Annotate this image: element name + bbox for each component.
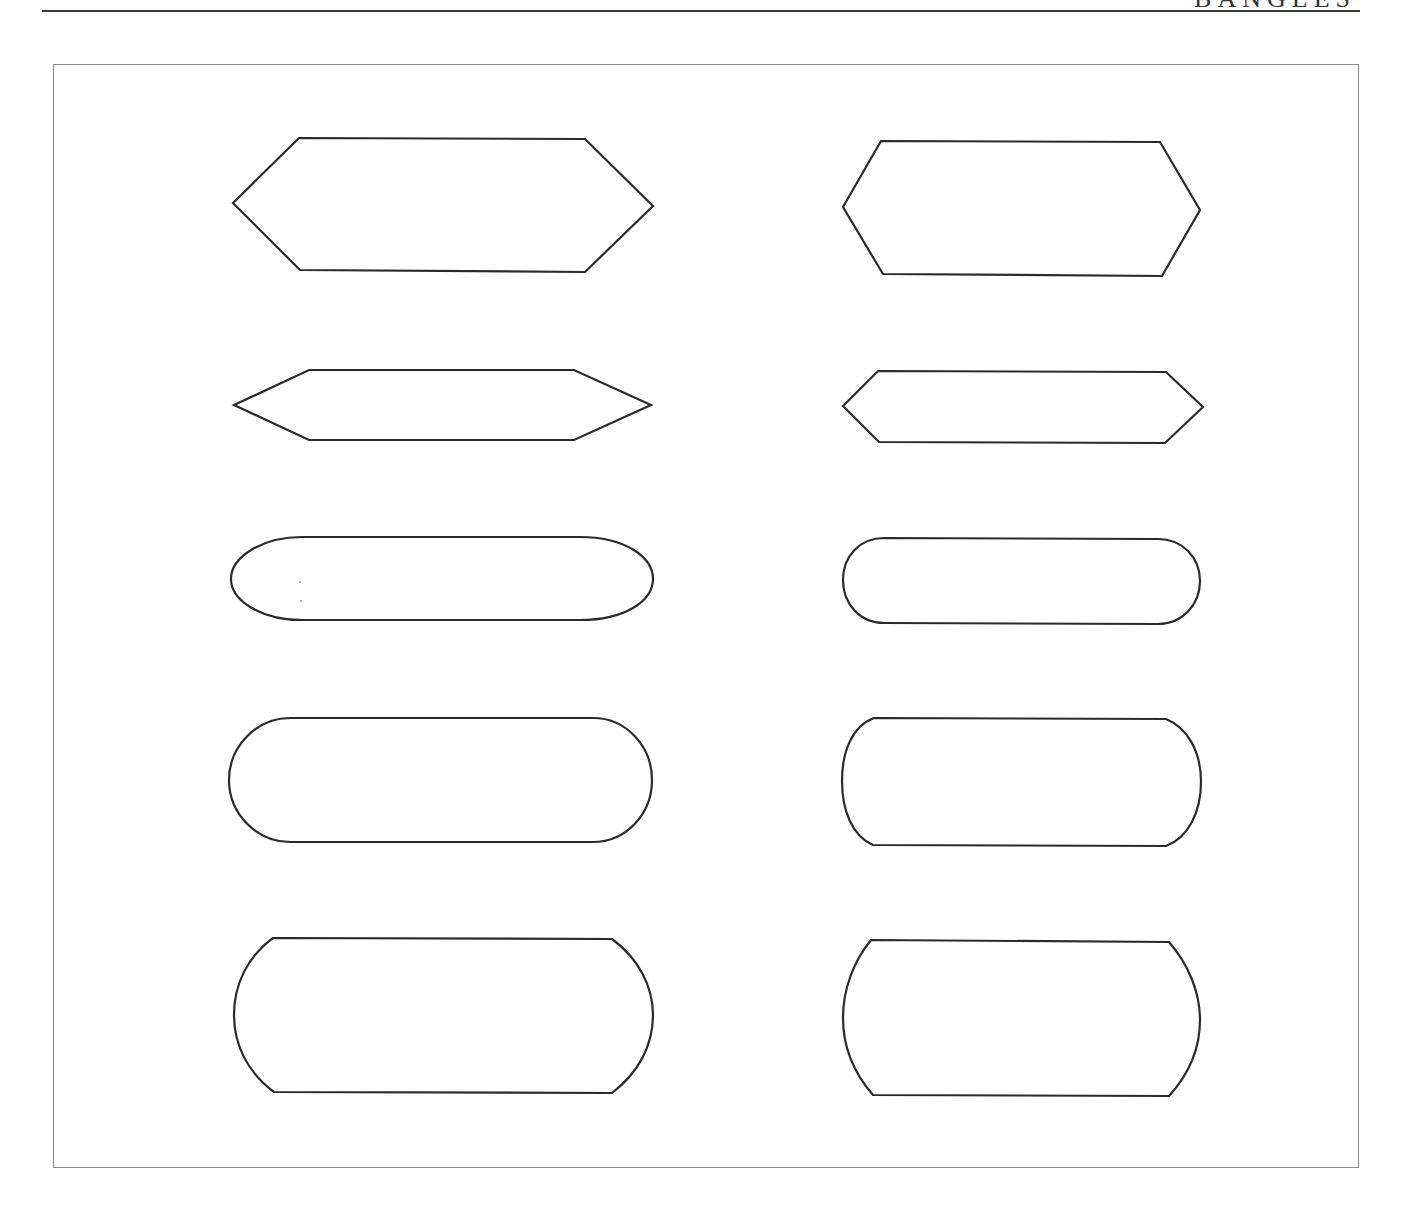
shape-hexagon — [843, 141, 1200, 276]
speck — [300, 600, 302, 602]
shape-plate — [0, 0, 1414, 1207]
shape-elongated-hexagon — [233, 138, 653, 272]
shape-rounded-capsule — [843, 538, 1200, 624]
shape-chamfered-bar — [843, 371, 1203, 443]
shape-stadium — [229, 718, 652, 842]
speck — [299, 581, 301, 583]
shape-convex-ended-rectangle — [842, 718, 1201, 846]
shape-arc-ended-rectangle-wide — [843, 940, 1200, 1096]
shape-pointed-lozenge — [234, 370, 651, 440]
shape-arc-ended-rectangle — [234, 938, 653, 1093]
shape-ellipse-capsule — [231, 537, 653, 620]
